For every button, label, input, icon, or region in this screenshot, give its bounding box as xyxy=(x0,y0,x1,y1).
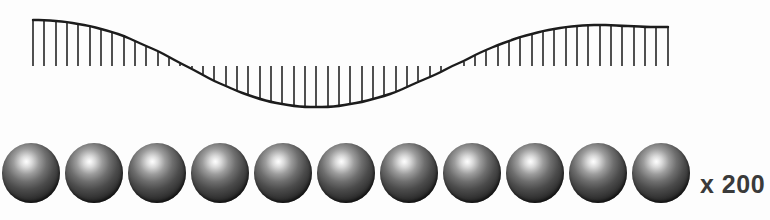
sphere xyxy=(65,143,123,203)
sphere xyxy=(317,143,375,203)
figure-canvas: x 200 xyxy=(0,0,770,220)
sphere xyxy=(380,143,438,203)
sphere xyxy=(191,143,249,203)
sphere xyxy=(254,143,312,203)
sphere xyxy=(569,143,627,203)
wave-svg xyxy=(0,0,770,130)
multiplier-label: x 200 xyxy=(700,170,765,199)
sphere xyxy=(2,143,60,203)
sphere xyxy=(632,143,690,203)
sphere xyxy=(128,143,186,203)
wave-diagram xyxy=(0,0,770,130)
sphere-row xyxy=(0,143,770,205)
sphere xyxy=(443,143,501,203)
sphere xyxy=(506,143,564,203)
wave-hatch-ticks xyxy=(33,21,668,106)
